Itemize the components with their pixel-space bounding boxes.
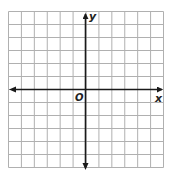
origin-label: O [75, 92, 84, 103]
x-axis-label: x [154, 92, 163, 105]
y-axis-label: y [89, 10, 97, 23]
y-axis-bottom-arrow-icon [83, 163, 89, 170]
coordinate-plane: y x O [0, 0, 170, 175]
x-axis-left-arrow-icon [9, 87, 16, 93]
